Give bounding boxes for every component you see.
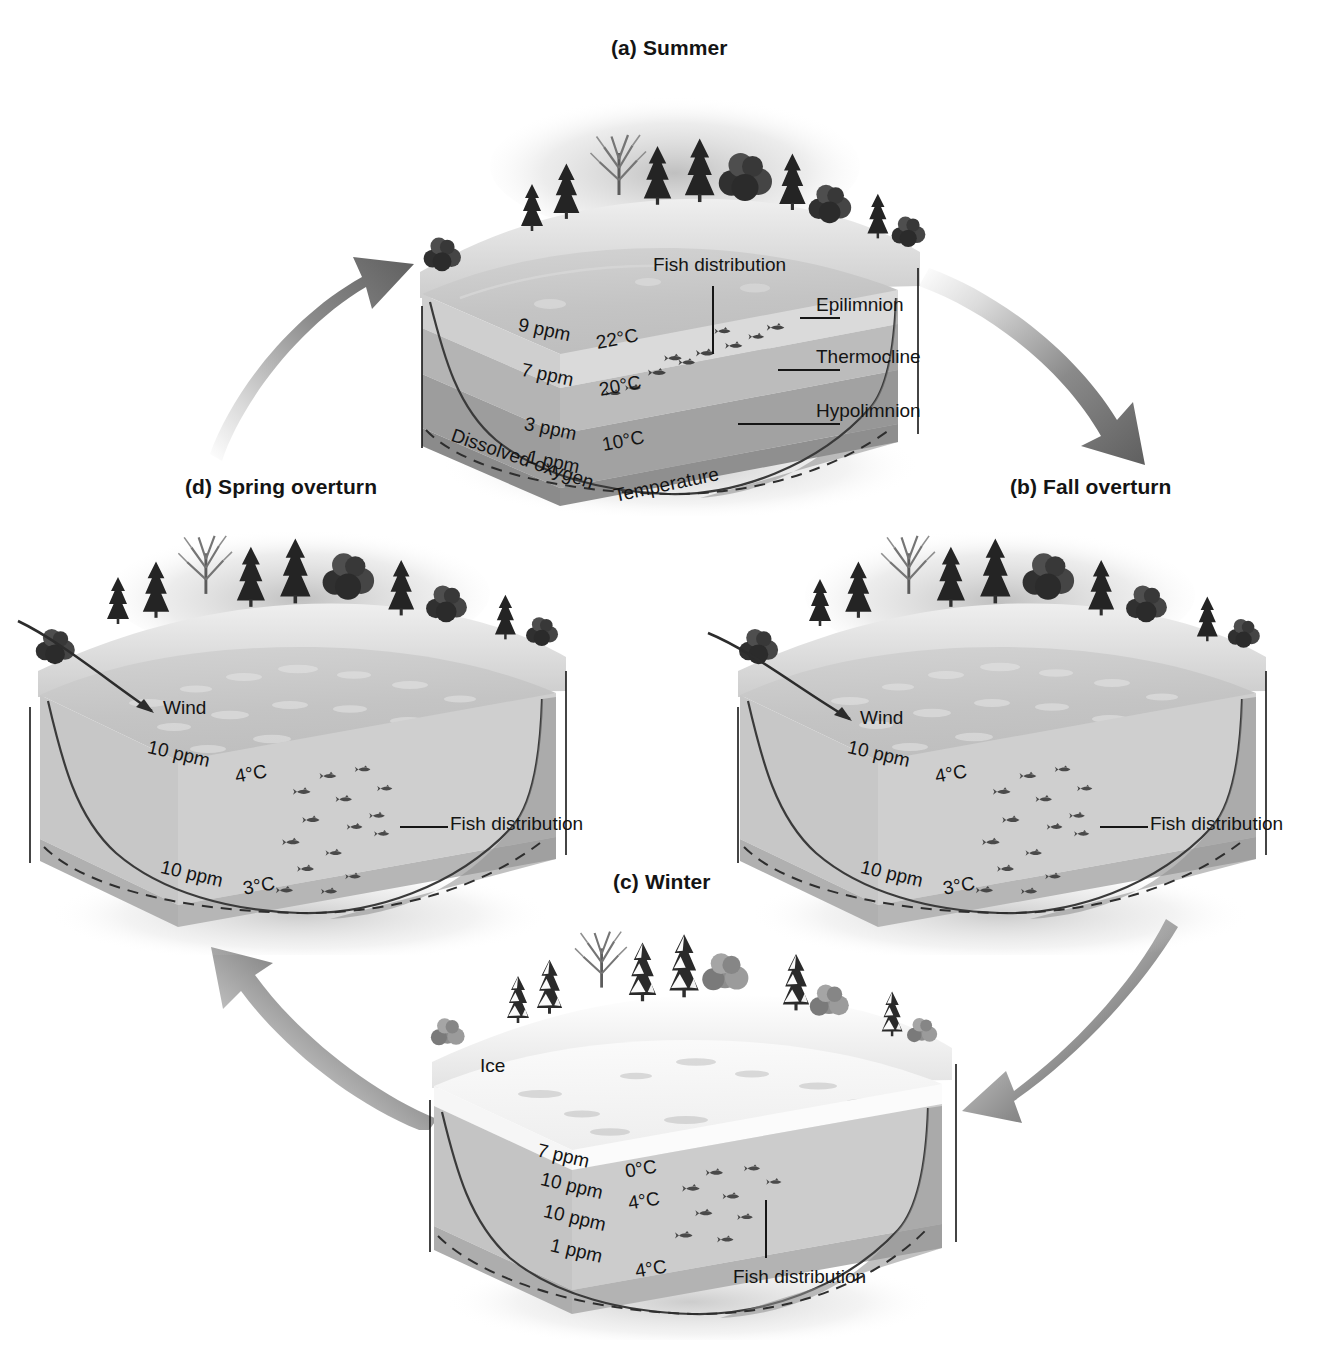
label-hypolimnion: Hypolimnion [816, 400, 921, 422]
label-wind-fall: Wind [860, 707, 903, 729]
label-ice: Ice [480, 1055, 505, 1077]
label-wind-spring: Wind [163, 697, 206, 719]
label-thermocline: Thermocline [816, 346, 921, 368]
label-fish-distribution-summer: Fish distribution [653, 254, 786, 276]
panel-summer: (a) Summer [400, 36, 960, 516]
label-fish-distribution-winter: Fish distribution [733, 1266, 866, 1288]
spring-block-diagram [0, 475, 600, 955]
label-fish-distribution-spring: Fish distribution [450, 813, 583, 835]
label-fish-distribution-fall: Fish distribution [1150, 813, 1283, 835]
label-epilimnion: Epilimnion [816, 294, 904, 316]
panel-spring-overturn: (d) Spring overturn [0, 475, 600, 955]
